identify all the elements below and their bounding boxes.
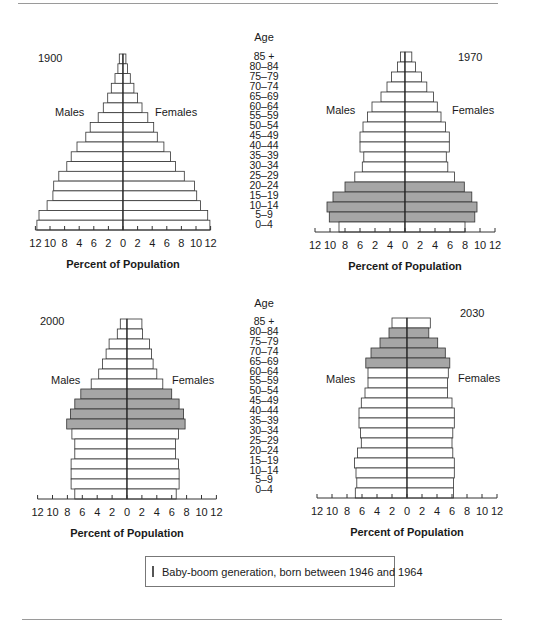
bar-male	[368, 378, 407, 388]
bar-female	[123, 93, 138, 103]
bar-female	[127, 479, 179, 489]
chart-title: 1900	[38, 52, 62, 64]
bar-male	[360, 132, 405, 142]
tick-label: 2	[372, 239, 378, 251]
tick-label: 12	[31, 506, 43, 518]
bar-male	[67, 162, 123, 172]
bar-male	[359, 418, 407, 428]
bar-female	[407, 408, 454, 418]
bar-female	[127, 489, 176, 499]
bar-male	[392, 72, 406, 82]
tick-label: 10	[476, 505, 488, 517]
bar-male	[108, 93, 123, 103]
tick-label: 2	[417, 239, 423, 251]
bar-male	[117, 329, 127, 339]
tick-label: 8	[62, 237, 68, 249]
tick-label: 8	[178, 237, 184, 249]
bar-male	[392, 318, 407, 328]
pyramid-2000: 12108642024681012Percent of Population20…	[31, 315, 222, 539]
bar-male	[91, 379, 127, 389]
bar-female	[407, 368, 448, 378]
bar-male	[90, 122, 123, 132]
tick-label: 10	[190, 237, 202, 249]
bar-female	[127, 389, 172, 399]
bar-male	[75, 439, 127, 449]
legend-label: Baby-boom generation, born between 1946 …	[162, 566, 423, 578]
bar-male	[372, 102, 405, 112]
males-label: Males	[51, 374, 81, 386]
bar-male	[71, 459, 127, 469]
tick-label: 4	[374, 505, 380, 517]
bar-male	[39, 210, 123, 220]
bar-female	[407, 438, 452, 448]
bar-male	[106, 349, 127, 359]
bar-male	[111, 83, 123, 93]
bar-female	[405, 92, 434, 102]
bar-male	[75, 399, 127, 409]
x-axis-label: Percent of Population	[66, 258, 180, 270]
bar-male	[361, 428, 408, 438]
bar-male	[71, 152, 123, 162]
tick-label: 2	[139, 506, 145, 518]
bar-male	[363, 122, 405, 132]
tick-label: 4	[432, 239, 438, 251]
bar-female	[127, 359, 153, 369]
bar-female	[127, 449, 175, 459]
tick-label: 0	[404, 505, 410, 517]
females-label: Females	[458, 372, 501, 384]
tick-label: 4	[94, 506, 100, 518]
bar-female	[123, 191, 197, 201]
tick-label: 2	[389, 505, 395, 517]
tick-label: 10	[324, 239, 336, 251]
bar-female	[407, 418, 454, 428]
bar-male	[109, 339, 127, 349]
bar-male	[67, 419, 127, 429]
tick-label: 8	[342, 239, 348, 251]
age-header: Age	[254, 31, 274, 43]
bar-female	[123, 132, 157, 142]
x-axis-label: Percent of Population	[348, 260, 462, 272]
bar-male	[86, 132, 123, 142]
tick-label: 10	[46, 506, 58, 518]
bar-female	[407, 478, 454, 488]
bar-male	[329, 212, 405, 222]
bar-female	[405, 82, 427, 92]
tick-label: 8	[184, 506, 190, 518]
bar-male	[70, 409, 127, 419]
bar-female	[405, 122, 446, 132]
bar-male	[98, 113, 123, 123]
bar-male	[47, 201, 123, 211]
tick-label: 10	[326, 505, 338, 517]
tick-label: 8	[64, 506, 70, 518]
bar-female	[123, 74, 130, 84]
tick-label: 4	[149, 237, 155, 249]
bar-male	[359, 408, 407, 418]
bar-female	[405, 62, 416, 72]
tick-label: 8	[462, 239, 468, 251]
bar-female	[123, 171, 184, 181]
tick-label: 2	[105, 237, 111, 249]
chart-title: 2000	[40, 315, 64, 327]
population-pyramids-figure: 12108462024681012Percent of Population19…	[0, 0, 533, 625]
tick-label: 12	[489, 239, 501, 251]
bar-male	[365, 388, 407, 398]
bar-male	[119, 54, 123, 64]
bar-female	[127, 339, 149, 349]
baby-boom-swatch	[152, 566, 154, 577]
tick-label: 6	[359, 505, 365, 517]
bar-male	[368, 368, 407, 378]
bar-male	[333, 192, 405, 202]
bar-male	[381, 92, 405, 102]
bar-female	[123, 103, 142, 113]
bar-female	[405, 212, 475, 222]
tick-label: 0	[402, 239, 408, 251]
tick-label: 12	[29, 237, 41, 249]
tick-label: 6	[449, 505, 455, 517]
bar-female	[127, 399, 179, 409]
bar-female	[123, 152, 170, 162]
bar-female	[405, 152, 446, 162]
bar-female	[123, 201, 200, 211]
bar-male	[345, 182, 405, 192]
bar-female	[407, 378, 448, 388]
tick-label: 4	[434, 505, 440, 517]
